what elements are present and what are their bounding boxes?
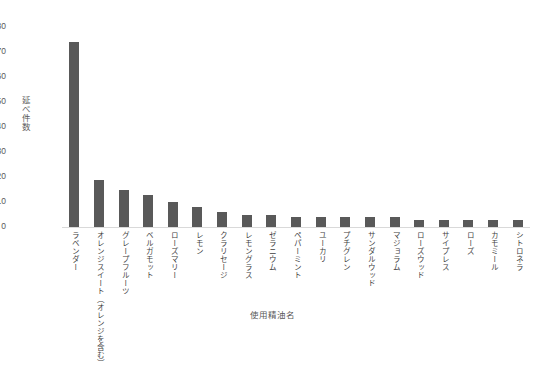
bar-slot [333,27,358,227]
x-tick-label: オレンジスイート（オレンジを含む） [95,231,104,365]
bar-slot [210,27,235,227]
x-tick-label: ベルガモット [144,231,153,279]
x-tick-label: ユーカリ [317,231,326,263]
bar-slot [161,27,186,227]
bar[interactable] [143,195,153,228]
x-tick-label: カモミール [489,231,498,271]
bar-slot [284,27,309,227]
bar[interactable] [513,220,523,228]
x-tick-label: マジョラム [391,231,400,271]
x-tick-label: レモン [193,231,202,255]
bar-slot [259,27,284,227]
bar-slot [136,27,161,227]
bar-slot [62,27,87,227]
x-tick-label: グレープフルーツ [120,231,129,295]
bar[interactable] [340,217,350,227]
bar-series [62,27,530,227]
x-tick-label: プチグレン [341,231,350,271]
bar[interactable] [365,217,375,227]
bar-slot [407,27,432,227]
bar[interactable] [217,212,227,227]
x-tick-label: サイプレス [440,231,449,271]
x-tick-label: ラベンダー [70,231,79,271]
bar-slot [308,27,333,227]
bar-slot [431,27,456,227]
bar[interactable] [488,220,498,228]
x-tick-label: レモングラス [243,231,252,279]
bar-slot [358,27,383,227]
x-tick-label: サンダルウッド [366,231,375,287]
bar[interactable] [463,220,473,228]
x-axis-line [62,227,530,228]
x-axis-tick-labels: ラベンダーオレンジスイート（オレンジを含む）グレープフルーツベルガモットローズマ… [62,231,530,303]
bar-slot [382,27,407,227]
bar[interactable] [266,215,276,228]
x-tick-label: シトロネラ [514,231,523,271]
x-tick-label: クラリセージ [218,231,227,279]
bar-slot [185,27,210,227]
x-tick-label: ゼラニウム [267,231,276,271]
bar[interactable] [439,220,449,228]
bar-slot [456,27,481,227]
bar[interactable] [414,220,424,228]
x-tick-label: ローズウッド [415,231,424,279]
bar-slot [481,27,506,227]
bar-slot [234,27,259,227]
x-tick-label: ローズマリー [169,231,178,279]
bar[interactable] [94,180,104,228]
x-tick-label: ペパーミント [292,231,301,279]
bar[interactable] [192,207,202,227]
x-tick-label: ローズ [464,231,473,255]
bar[interactable] [168,202,178,227]
x-axis-title: 使用精油名 [0,308,545,320]
bar[interactable] [291,217,301,227]
bar-slot [111,27,136,227]
bar[interactable] [390,217,400,227]
bar[interactable] [242,215,252,228]
bar[interactable] [316,217,326,227]
y-axis-title: 延べ件数 [16,96,30,132]
bar[interactable] [119,190,129,228]
bar[interactable] [69,42,79,227]
bar-slot [87,27,112,227]
bar-slot [505,27,530,227]
